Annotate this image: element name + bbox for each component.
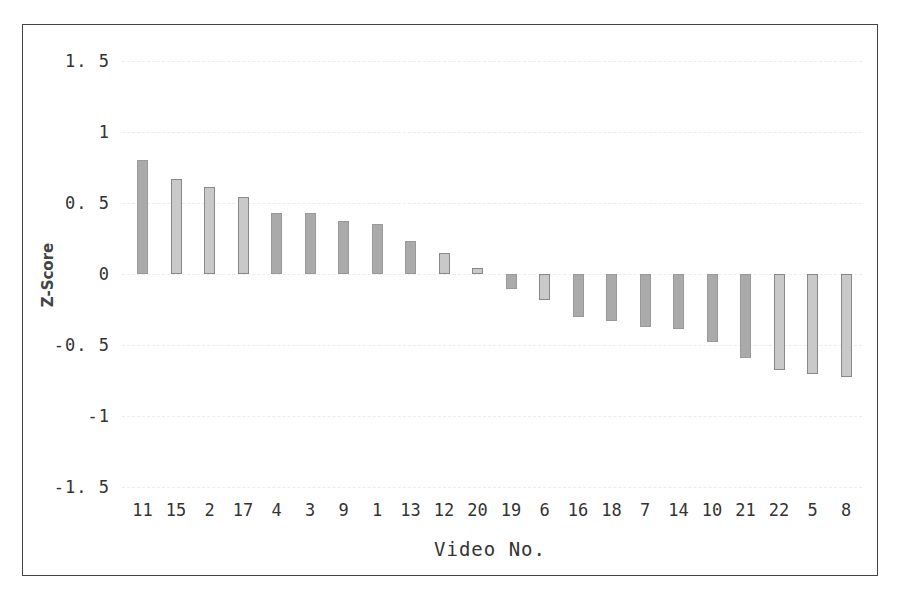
y-tick-label: -1 [30, 406, 110, 426]
x-tick-label: 21 [729, 500, 763, 520]
bar [807, 274, 818, 374]
x-tick-label: 8 [829, 500, 863, 520]
bar [707, 274, 718, 342]
x-tick-label: 20 [461, 500, 495, 520]
x-tick-label: 10 [695, 500, 729, 520]
bar [137, 160, 148, 274]
x-tick-label: 17 [226, 500, 260, 520]
y-tick-label: 1. 5 [30, 51, 110, 71]
bar [204, 187, 215, 274]
bar [740, 274, 751, 358]
bar [841, 274, 852, 377]
x-tick-label: 2 [193, 500, 227, 520]
x-tick-label: 9 [327, 500, 361, 520]
bar [271, 213, 282, 274]
gridline [122, 416, 862, 417]
bar [338, 221, 349, 274]
x-tick-label: 6 [528, 500, 562, 520]
x-tick-label: 15 [159, 500, 193, 520]
x-tick-label: 14 [662, 500, 696, 520]
bar [506, 274, 517, 289]
x-tick-label: 19 [494, 500, 528, 520]
x-tick-label: 12 [427, 500, 461, 520]
bar [305, 213, 316, 274]
bar [405, 241, 416, 274]
x-tick-label: 5 [796, 500, 830, 520]
gridline [122, 274, 862, 275]
bar [439, 253, 450, 274]
bar [774, 274, 785, 370]
x-tick-label: 22 [762, 500, 796, 520]
gridline [122, 61, 862, 62]
bar [372, 224, 383, 274]
y-tick-label: 1 [30, 122, 110, 142]
gridline [122, 132, 862, 133]
bar [606, 274, 617, 321]
x-tick-label: 11 [126, 500, 160, 520]
bar [573, 274, 584, 317]
y-tick-label: 0. 5 [30, 193, 110, 213]
x-axis-label: Video No. [434, 538, 546, 560]
bar [539, 274, 550, 300]
bar [171, 179, 182, 274]
x-tick-label: 16 [561, 500, 595, 520]
y-tick-label: -0. 5 [30, 335, 110, 355]
gridline [122, 345, 862, 346]
gridline [122, 487, 862, 488]
bar [472, 268, 483, 274]
x-tick-label: 13 [394, 500, 428, 520]
x-tick-label: 7 [628, 500, 662, 520]
plot-area: 1. 510. 50-0. 5-1-1. 5111521743911312201… [0, 0, 902, 600]
gridline [122, 203, 862, 204]
y-axis-label: Z-Score [39, 243, 57, 307]
bar [673, 274, 684, 329]
bar [640, 274, 651, 327]
x-tick-label: 4 [260, 500, 294, 520]
x-tick-label: 18 [595, 500, 629, 520]
x-tick-label: 1 [360, 500, 394, 520]
bar [238, 197, 249, 274]
x-tick-label: 3 [293, 500, 327, 520]
y-tick-label: -1. 5 [30, 477, 110, 497]
